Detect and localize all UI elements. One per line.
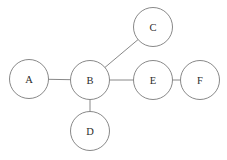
node-label-c: C bbox=[149, 22, 156, 33]
node-label-a: A bbox=[25, 74, 33, 85]
node-label-d: D bbox=[86, 126, 94, 137]
node-layer: ABCDEF bbox=[10, 8, 220, 151]
graph-node-f[interactable]: F bbox=[181, 61, 220, 100]
graph-edge-b-c bbox=[105, 40, 138, 68]
graph-node-c[interactable]: C bbox=[134, 8, 173, 47]
node-label-e: E bbox=[150, 75, 156, 86]
graph-node-b[interactable]: B bbox=[71, 61, 110, 100]
node-label-b: B bbox=[86, 75, 93, 86]
graph-node-e[interactable]: E bbox=[134, 61, 173, 100]
graph-node-d[interactable]: D bbox=[71, 112, 110, 151]
graph-diagram: ABCDEF bbox=[0, 0, 227, 160]
graph-node-a[interactable]: A bbox=[10, 60, 49, 99]
node-label-f: F bbox=[197, 75, 203, 86]
